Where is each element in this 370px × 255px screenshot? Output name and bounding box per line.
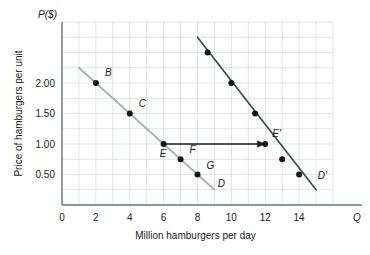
y-tick-label: 2.00 [36, 78, 56, 89]
x-axis-title: Million hamburgers per day [135, 230, 256, 241]
x-tick-label: 4 [127, 212, 133, 223]
point-label-F: F [190, 144, 197, 155]
x-tick-label: 14 [294, 212, 306, 223]
data-point [262, 141, 268, 147]
curve-label-D-prime: D' [318, 170, 328, 181]
point-label-E: E [160, 148, 167, 159]
y-axis-title: Price of hamburgers per unit [13, 50, 24, 176]
y-tick-label: 1.50 [36, 108, 56, 119]
x-tick-label: 2 [93, 212, 99, 223]
x-tick-label: 12 [260, 212, 272, 223]
data-point [93, 80, 99, 86]
data-point [195, 172, 201, 178]
data-point [178, 156, 184, 162]
curve-labels: DD' [218, 170, 328, 188]
point-label-C: C [139, 98, 147, 109]
x-tick-label: 10 [226, 212, 238, 223]
data-point [279, 156, 285, 162]
data-point [127, 111, 133, 117]
y-tick-label: 0.50 [36, 169, 56, 180]
curve-label-D: D [218, 178, 225, 189]
chart-canvas: 02468101214 0.501.001.502.00 BCEFGE' DD'… [0, 0, 370, 255]
data-point [296, 172, 302, 178]
point-label-B: B [105, 67, 112, 78]
data-point [205, 50, 211, 56]
data-point [228, 80, 234, 86]
x-tick-label: 6 [161, 212, 167, 223]
point-label-E-prime: E' [272, 128, 282, 139]
x-tick-labels: 02468101214 [59, 212, 305, 223]
y-tick-labels: 0.501.001.502.00 [36, 78, 56, 181]
data-point [252, 111, 258, 117]
data-point [161, 141, 167, 147]
x-tick-label: 8 [195, 212, 201, 223]
x-axis-symbol: Q [353, 212, 361, 223]
y-tick-label: 1.00 [36, 139, 56, 150]
point-labels: BCEFGE' [105, 67, 282, 171]
x-tick-label: 0 [59, 212, 65, 223]
point-label-G: G [207, 160, 215, 171]
axis-titles: Million hamburgers per dayPrice of hambu… [13, 9, 361, 241]
y-axis-symbol: P($) [38, 9, 57, 20]
gridlines [62, 22, 333, 205]
demand-curve-figure: 02468101214 0.501.001.502.00 BCEFGE' DD'… [0, 0, 370, 255]
